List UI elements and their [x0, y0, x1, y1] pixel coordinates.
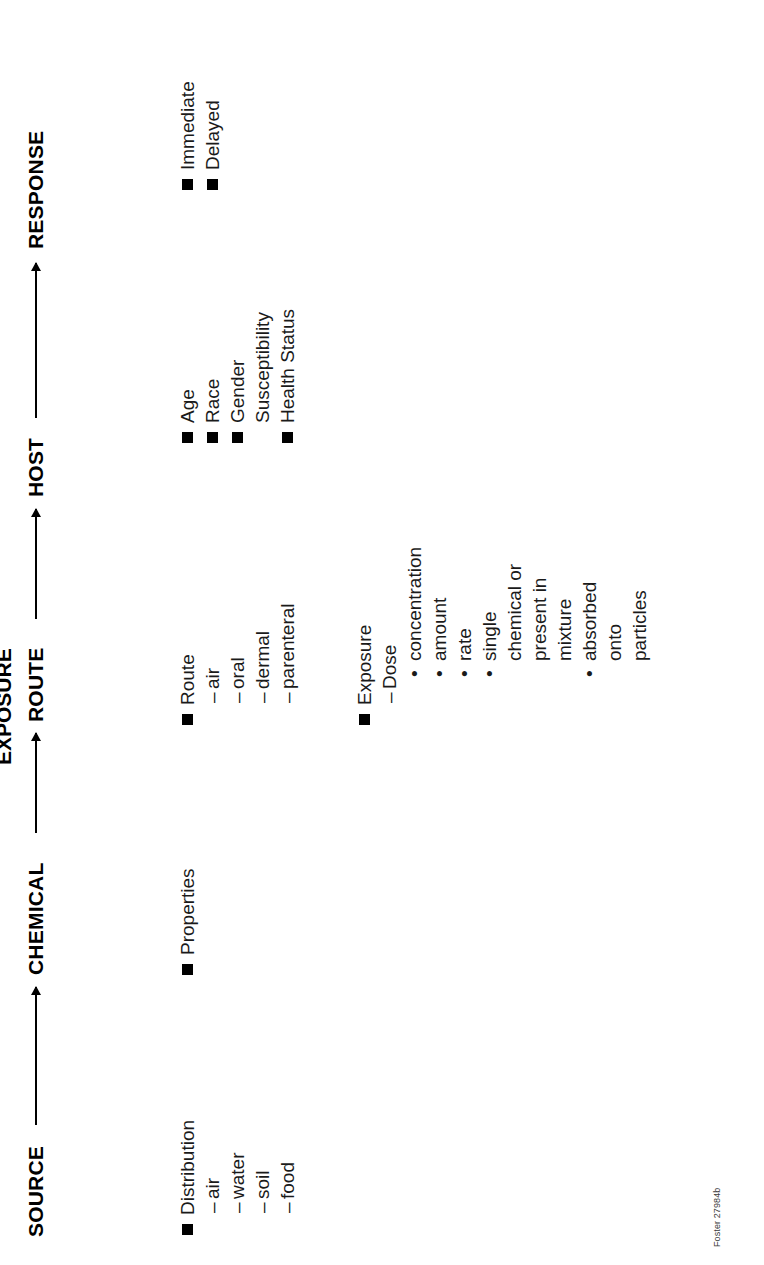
node-label: dermal — [252, 631, 273, 689]
node-exposure-9: •absorbed — [577, 547, 602, 725]
node-label: Race — [202, 379, 223, 423]
node-label: chemical or — [504, 564, 525, 661]
square-bullet-icon — [182, 964, 193, 975]
dash-bullet-icon: – — [200, 1199, 225, 1213]
node-exposure-11: particles — [627, 547, 652, 725]
node-label: air — [202, 668, 223, 689]
node-response-0: Immediate — [175, 81, 200, 190]
node-label: rate — [454, 628, 475, 661]
column-chemical: Properties — [175, 868, 200, 975]
dot-bullet-icon: • — [577, 661, 602, 677]
node-host-3: Susceptibility — [250, 309, 275, 443]
chain-label-route: ROUTE — [24, 648, 48, 723]
chain-arrow-host-to-response — [35, 263, 37, 418]
node-exposure-10: onto — [602, 547, 627, 725]
dot-bullet-icon: • — [477, 661, 502, 677]
rotated-figure-wrapper: SOURCE CHEMICAL ROUTE HOST RESPONSE EXPO… — [0, 0, 764, 1265]
column-host: AgeRaceGenderSusceptibilityHealth Status — [175, 309, 300, 443]
node-route-0: Route — [175, 603, 200, 725]
dash-bullet-icon: – — [200, 689, 225, 703]
square-bullet-icon — [182, 1224, 193, 1235]
chain-arrow-source-to-chemical — [35, 987, 37, 1125]
node-exposure-6: chemical or — [502, 547, 527, 725]
node-label: Gender — [227, 360, 248, 423]
node-exposure-4: •rate — [452, 547, 477, 725]
node-exposure-7: present in — [527, 547, 552, 725]
node-label: mixture — [554, 599, 575, 661]
node-label: single — [479, 611, 500, 661]
node-source-2: –water — [225, 1120, 250, 1235]
node-exposure-3: •amount — [427, 547, 452, 725]
node-label: present in — [529, 578, 550, 661]
node-label: water — [227, 1153, 248, 1199]
dash-bullet-icon: – — [275, 689, 300, 703]
square-bullet-icon — [182, 432, 193, 443]
node-label: Delayed — [202, 100, 223, 170]
square-bullet-icon — [282, 432, 293, 443]
node-exposure-2: •concentration — [402, 547, 427, 725]
node-source-0: Distribution — [175, 1120, 200, 1235]
square-bullet-icon — [182, 714, 193, 725]
square-bullet-icon — [232, 432, 243, 443]
dot-bullet-icon: • — [452, 661, 477, 677]
node-route-4: –parenteral — [275, 603, 300, 725]
dash-bullet-icon: – — [377, 689, 402, 703]
dash-bullet-icon: – — [275, 1199, 300, 1213]
dash-bullet-icon: – — [250, 1199, 275, 1213]
column-exposure: Exposure–Dose•concentration•amount•rate•… — [352, 547, 652, 725]
diagram-canvas: SOURCE CHEMICAL ROUTE HOST RESPONSE EXPO… — [0, 0, 764, 1265]
node-chemical-0: Properties — [175, 868, 200, 975]
chain-label-host: HOST — [24, 438, 48, 497]
column-source: Distribution–air–water–soil–food — [175, 1120, 300, 1235]
chain-arrow-chemical-to-route — [35, 733, 37, 833]
node-label: soil — [252, 1170, 273, 1199]
node-label: Properties — [177, 868, 198, 955]
dash-bullet-icon: – — [250, 689, 275, 703]
node-label: food — [277, 1162, 298, 1199]
exposure-group-label: EXPOSURE — [0, 648, 16, 765]
column-route: Route–air–oral–dermal–parenteral — [175, 603, 300, 725]
dash-bullet-icon: – — [225, 689, 250, 703]
square-bullet-icon — [359, 714, 370, 725]
node-exposure-0: Exposure — [352, 547, 377, 725]
node-label: air — [202, 1178, 223, 1199]
node-route-1: –air — [200, 603, 225, 725]
node-label: Dose — [379, 645, 400, 689]
square-bullet-icon — [207, 432, 218, 443]
dot-bullet-icon: • — [427, 661, 452, 677]
column-response: ImmediateDelayed — [175, 81, 225, 190]
process-chain-header: SOURCE CHEMICAL ROUTE HOST RESPONSE — [24, 0, 84, 1265]
dash-bullet-icon: – — [225, 1199, 250, 1213]
node-label: Exposure — [354, 625, 375, 705]
node-label: parenteral — [277, 603, 298, 689]
chain-label-source: SOURCE — [24, 1146, 48, 1237]
node-label: oral — [227, 657, 248, 689]
node-host-4: Health Status — [275, 309, 300, 443]
node-label: Susceptibility — [252, 312, 273, 423]
node-source-1: –air — [200, 1120, 225, 1235]
node-label: absorbed — [579, 582, 600, 661]
node-response-1: Delayed — [200, 81, 225, 190]
chain-label-response: RESPONSE — [24, 131, 48, 249]
node-exposure-1: –Dose — [377, 547, 402, 725]
node-host-2: Gender — [225, 309, 250, 443]
node-route-2: –oral — [225, 603, 250, 725]
node-exposure-8: mixture — [552, 547, 577, 725]
node-label: Health Status — [277, 309, 298, 423]
node-route-3: –dermal — [250, 603, 275, 725]
chain-arrow-route-to-host — [35, 509, 37, 619]
chain-label-chemical: CHEMICAL — [24, 863, 48, 975]
square-bullet-icon — [207, 179, 218, 190]
node-host-0: Age — [175, 309, 200, 443]
node-source-3: –soil — [250, 1120, 275, 1235]
node-label: Age — [177, 389, 198, 423]
dot-bullet-icon: • — [402, 661, 427, 677]
figure-credit: Foster 27984b — [712, 1188, 722, 1247]
node-source-4: –food — [275, 1120, 300, 1235]
node-label: Distribution — [177, 1120, 198, 1215]
square-bullet-icon — [182, 179, 193, 190]
node-label: amount — [429, 598, 450, 661]
node-label: concentration — [404, 547, 425, 661]
node-label: Immediate — [177, 81, 198, 170]
node-host-1: Race — [200, 309, 225, 443]
